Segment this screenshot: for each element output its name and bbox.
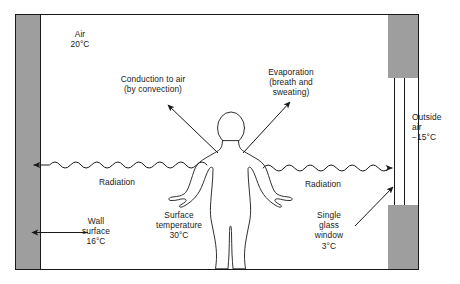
window-pointer-arrow	[355, 187, 393, 226]
right-wall-block-upper	[388, 15, 418, 78]
right-wall-block-lower	[388, 205, 418, 269]
left-wall-block	[16, 15, 40, 269]
surface-temperature-label: Surface temperature 30°C	[140, 210, 218, 241]
wall-surface-label: Wall surface 16°C	[72, 216, 120, 247]
evaporation-arrow	[243, 102, 290, 153]
air-temperature-label: Air 20°C	[58, 29, 102, 49]
radiation-arrow-right	[263, 165, 392, 171]
radiation-arrow-left	[34, 162, 207, 168]
figure-head	[218, 112, 245, 144]
heat-loss-diagram: Air 20°C Conduction to air (by convectio…	[0, 0, 460, 284]
window-label: Single glass window 3°C	[305, 210, 353, 251]
outside-air-label: Outside air −15°C	[412, 112, 458, 143]
radiation-left-label: Radiation	[84, 177, 150, 187]
conduction-arrow	[168, 105, 218, 153]
radiation-right-label: Radiation	[290, 179, 356, 189]
window-glass	[395, 78, 405, 205]
evaporation-label: Evaporation (breath and sweating)	[252, 67, 330, 98]
human-figure	[169, 112, 292, 269]
figure-body	[169, 141, 292, 269]
conduction-label: Conduction to air (by convection)	[106, 74, 200, 94]
